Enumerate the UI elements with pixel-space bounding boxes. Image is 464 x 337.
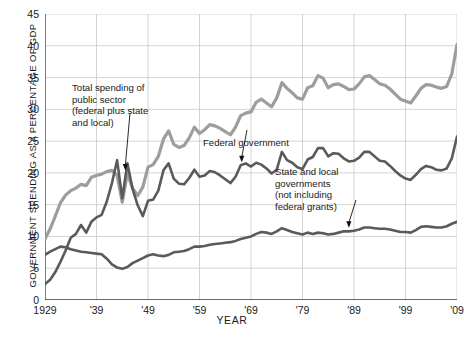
y-tick-label: 45 [27, 8, 39, 20]
y-tick-label: 10 [27, 230, 39, 242]
chart-canvas [45, 14, 457, 300]
y-tick-label: 35 [27, 72, 39, 84]
plot-area: 0510152025303540451929'39'49'59'69'79'89… [45, 14, 457, 300]
y-tick-label: 20 [27, 167, 39, 179]
chart-figure: GOVERNMENT SPENDING AS A PERCENTAGE OF G… [0, 0, 464, 337]
annotation-state-local: State and local governments (not includi… [275, 166, 395, 212]
x-axis-title: YEAR [0, 314, 464, 326]
annotation-total-spending: Total spending of public sector (federal… [72, 82, 208, 128]
y-tick-label: 25 [27, 135, 39, 147]
y-tick-label: 40 [27, 40, 39, 52]
y-tick-label: 15 [27, 199, 39, 211]
annotation-federal-government: Federal government [203, 137, 323, 149]
y-tick-label: 5 [33, 262, 39, 274]
y-tick-label: 30 [27, 103, 39, 115]
